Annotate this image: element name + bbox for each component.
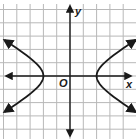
grid-lines — [0, 4, 136, 139]
hyperbola-graph: y x O — [0, 0, 136, 139]
y-axis-label: y — [74, 5, 82, 17]
x-axis-label: x — [125, 78, 133, 90]
origin-label: O — [59, 77, 68, 89]
